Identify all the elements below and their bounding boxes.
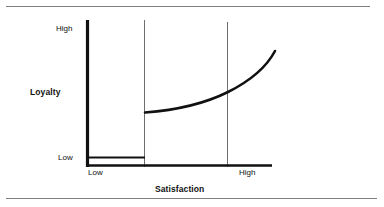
x-tick-label-low: Low xyxy=(88,168,103,177)
y-tick-label-high: High xyxy=(56,24,72,33)
y-tick-label-low: Low xyxy=(58,153,73,162)
x-axis-title: Satisfaction xyxy=(155,184,204,194)
y-axis-title: Loyalty xyxy=(30,87,60,97)
chart-figure: Loyalty Satisfaction High Low Low High xyxy=(0,0,384,207)
series-satisfaction-loyalty-curve xyxy=(145,51,275,113)
x-tick-label-high: High xyxy=(239,168,255,177)
